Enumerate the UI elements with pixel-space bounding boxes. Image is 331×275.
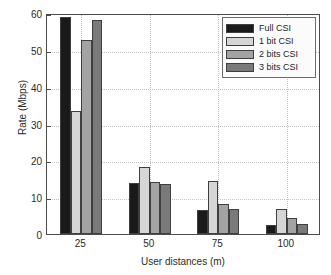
y-tick-label: 30 xyxy=(4,119,42,130)
legend-swatch xyxy=(226,24,254,33)
bar xyxy=(160,184,171,234)
x-axis-label: User distances (m) xyxy=(46,256,320,267)
bar xyxy=(150,182,161,234)
legend-swatch xyxy=(226,37,254,46)
legend-label: 2 bits CSI xyxy=(259,49,298,59)
x-tick-label: 100 xyxy=(277,238,294,249)
bar xyxy=(229,209,240,234)
y-tick-label: 0 xyxy=(4,230,42,241)
legend-item: Full CSI xyxy=(226,22,312,34)
y-tick-label: 40 xyxy=(4,82,42,93)
legend-label: Full CSI xyxy=(259,23,291,33)
y-tick-mark xyxy=(47,89,51,90)
y-tick-mark xyxy=(47,52,51,53)
y-tick-label: 10 xyxy=(4,193,42,204)
bar xyxy=(208,181,219,234)
bar xyxy=(218,204,229,234)
y-tick-mark xyxy=(47,15,51,16)
legend-label: 3 bits CSI xyxy=(259,62,298,72)
bar xyxy=(139,167,150,234)
figure: Rate (Mbps) User distances (m) 010203040… xyxy=(0,0,331,275)
gridline-vertical xyxy=(218,15,219,234)
bar xyxy=(297,224,308,234)
y-tick-label: 60 xyxy=(4,9,42,20)
x-tick-label: 75 xyxy=(212,238,223,249)
y-axis-label: Rate (Mbps) xyxy=(17,48,28,168)
legend: Full CSI1 bit CSI2 bits CSI3 bits CSI xyxy=(222,17,316,78)
legend-swatch xyxy=(226,50,254,59)
legend-swatch xyxy=(226,63,254,72)
x-tick-label: 25 xyxy=(75,238,86,249)
bar xyxy=(60,17,71,234)
y-tick-label: 50 xyxy=(4,45,42,56)
y-tick-label: 20 xyxy=(4,156,42,167)
x-tick-label: 50 xyxy=(143,238,154,249)
bar xyxy=(92,20,103,234)
bar xyxy=(276,209,287,234)
bar xyxy=(129,183,140,234)
legend-item: 3 bits CSI xyxy=(226,61,312,73)
bar xyxy=(81,40,92,234)
legend-item: 1 bit CSI xyxy=(226,35,312,47)
bar xyxy=(287,218,298,234)
y-tick-mark xyxy=(47,126,51,127)
y-tick-mark xyxy=(47,162,51,163)
y-tick-mark xyxy=(47,199,51,200)
legend-label: 1 bit CSI xyxy=(259,36,294,46)
bar xyxy=(71,111,82,234)
legend-item: 2 bits CSI xyxy=(226,48,312,60)
bar xyxy=(266,225,277,234)
bar xyxy=(197,210,208,234)
